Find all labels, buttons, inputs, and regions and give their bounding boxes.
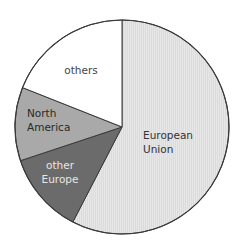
pie-chart: EuropeanUnionotherEuropeNorthAmericaothe…: [0, 0, 240, 246]
label-others: others: [64, 64, 97, 76]
